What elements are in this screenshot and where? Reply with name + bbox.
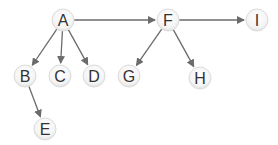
node-label: C: [54, 68, 66, 85]
node-d: D: [83, 65, 105, 87]
node-b: B: [14, 65, 36, 87]
node-label: G: [123, 68, 135, 85]
node-label: I: [255, 12, 259, 29]
node-h: H: [189, 67, 211, 89]
node-label: D: [88, 68, 100, 85]
node-label: A: [58, 12, 69, 29]
nodes-layer: ABCDEFGHI: [14, 9, 268, 140]
edge-a-b: [32, 29, 57, 65]
diagram-canvas: ABCDEFGHI: [0, 0, 278, 145]
edge-f-h: [173, 30, 193, 67]
edge-b-e: [29, 86, 41, 117]
edge-a-d: [68, 30, 87, 65]
tree-diagram: ABCDEFGHI: [0, 0, 278, 145]
node-i: I: [246, 9, 268, 31]
node-g: G: [118, 65, 140, 87]
edge-a-c: [61, 31, 63, 63]
node-c: C: [49, 65, 71, 87]
node-label: E: [40, 121, 51, 138]
node-e: E: [34, 118, 56, 140]
node-label: H: [194, 70, 206, 87]
node-a: A: [52, 9, 74, 31]
edge-f-g: [136, 29, 161, 65]
node-label: B: [20, 68, 31, 85]
node-f: F: [157, 9, 179, 31]
node-label: F: [163, 12, 173, 29]
